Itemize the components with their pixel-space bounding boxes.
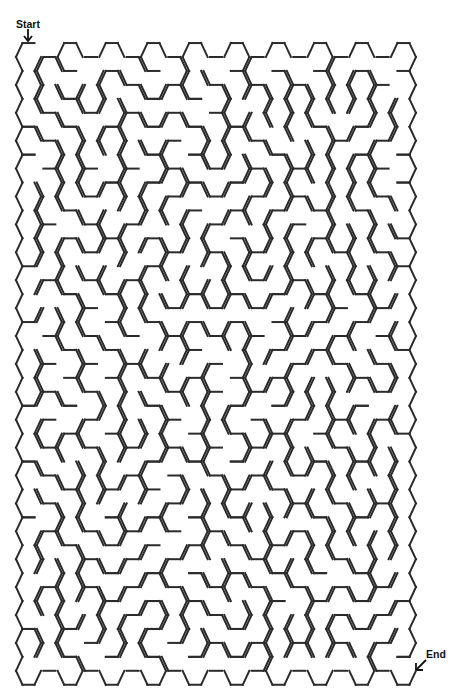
- maze-wall: [16, 252, 23, 266]
- maze-wall: [368, 43, 375, 57]
- maze-wall: [16, 517, 23, 531]
- maze-wall: [409, 308, 416, 322]
- maze-wall: [409, 378, 416, 392]
- maze-wall: [284, 43, 291, 57]
- maze-wall: [224, 43, 231, 57]
- maze-wall: [409, 462, 416, 476]
- maze-wall: [243, 43, 250, 57]
- maze-wall: [308, 43, 315, 57]
- maze-wall: [16, 169, 23, 183]
- maze-wall: [16, 448, 23, 462]
- maze-wall: [409, 127, 416, 141]
- maze-wall: [409, 210, 416, 224]
- maze-wall: [16, 476, 23, 490]
- maze-wall: [35, 671, 42, 685]
- maze-wall: [183, 671, 190, 685]
- maze-wall: [409, 503, 416, 517]
- maze-wall: [409, 615, 416, 629]
- maze-wall: [16, 406, 23, 420]
- maze-wall: [16, 350, 23, 364]
- maze-wall: [349, 43, 356, 57]
- maze-wall: [16, 141, 23, 155]
- maze-wall: [183, 43, 190, 57]
- maze-wall: [409, 629, 416, 643]
- maze-wall: [409, 643, 416, 657]
- maze-wall: [308, 671, 315, 685]
- maze-wall: [16, 587, 23, 601]
- maze-wall: [409, 43, 416, 57]
- maze-wall: [409, 71, 416, 85]
- maze-wall: [141, 671, 148, 685]
- maze-wall: [326, 671, 333, 685]
- maze-wall: [409, 183, 416, 197]
- maze-wall: [284, 671, 291, 685]
- maze-wall: [16, 308, 23, 322]
- maze-wall: [16, 113, 23, 127]
- maze-wall: [409, 141, 416, 155]
- maze-wall: [409, 85, 416, 99]
- maze-wall: [201, 671, 208, 685]
- maze-wall: [409, 601, 416, 615]
- maze-wall: [409, 197, 416, 211]
- maze-wall: [99, 671, 106, 685]
- maze-wall: [409, 224, 416, 238]
- maze-wall: [409, 99, 416, 113]
- maze-wall: [409, 294, 416, 308]
- maze-wall: [16, 294, 23, 308]
- maze-wall: [16, 462, 23, 476]
- maze-wall: [16, 378, 23, 392]
- maze-wall: [16, 224, 23, 238]
- maze-wall: [58, 671, 65, 685]
- maze-wall: [409, 169, 416, 183]
- maze-wall: [159, 43, 166, 57]
- maze-wall: [118, 671, 125, 685]
- maze-wall: [16, 629, 23, 643]
- maze-wall: [76, 43, 83, 57]
- maze-wall: [409, 350, 416, 364]
- maze-wall: [16, 573, 23, 587]
- maze-wall: [99, 43, 106, 57]
- maze-wall: [16, 392, 23, 406]
- maze-wall: [391, 671, 398, 685]
- maze-wall: [349, 671, 356, 685]
- maze-wall: [16, 601, 23, 615]
- maze-wall: [16, 71, 23, 85]
- maze-wall: [266, 671, 273, 685]
- maze-wall: [224, 671, 231, 685]
- maze-wall: [409, 559, 416, 573]
- maze-wall: [201, 43, 208, 57]
- maze-wall: [16, 183, 23, 197]
- maze-wall: [16, 238, 23, 252]
- maze-wall: [118, 43, 125, 57]
- maze-wall: [409, 671, 416, 685]
- maze-wall: [409, 322, 416, 336]
- maze-wall: [409, 155, 416, 169]
- maze-wall: [409, 489, 416, 503]
- maze-wall: [409, 57, 416, 71]
- maze-wall: [409, 587, 416, 601]
- maze-wall: [16, 489, 23, 503]
- maze-wall: [368, 671, 375, 685]
- maze-wall: [16, 434, 23, 448]
- maze-wall: [16, 197, 23, 211]
- maze-wall: [409, 113, 416, 127]
- maze-wall: [16, 85, 23, 99]
- maze-wall: [326, 43, 333, 57]
- maze-wall: [409, 406, 416, 420]
- maze-wall: [409, 434, 416, 448]
- maze-wall: [409, 238, 416, 252]
- maze-wall: [409, 280, 416, 294]
- maze-wall: [409, 517, 416, 531]
- maze-board[interactable]: [0, 0, 457, 697]
- maze-wall: [16, 322, 23, 336]
- maze-wall: [409, 266, 416, 280]
- maze-wall: [16, 364, 23, 378]
- maze-wall: [16, 545, 23, 559]
- maze-wall: [16, 336, 23, 350]
- maze-wall: [16, 643, 23, 657]
- maze-wall: [16, 559, 23, 573]
- maze-wall: [409, 545, 416, 559]
- maze-wall: [16, 155, 23, 169]
- maze-wall: [16, 503, 23, 517]
- maze-wall: [409, 573, 416, 587]
